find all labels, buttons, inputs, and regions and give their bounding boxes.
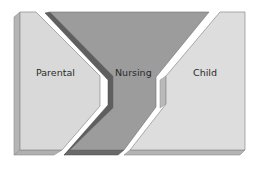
parental-label: Parental <box>36 67 75 78</box>
nursing-label: Nursing <box>115 67 152 78</box>
child-label: Child <box>193 67 217 78</box>
parental-nursing-child-diagram: Parental Nursing Child <box>0 0 258 169</box>
